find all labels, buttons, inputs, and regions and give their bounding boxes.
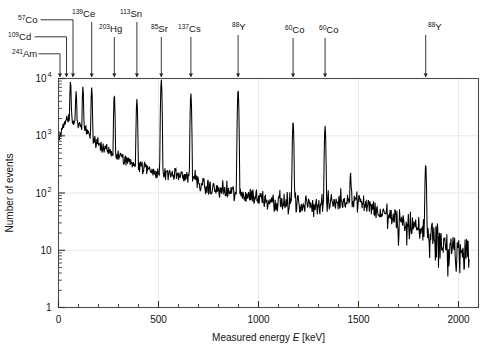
isotope-label: 109Cd [8,31,31,43]
isotope-symbol: Co [326,24,338,35]
isotope-annotation: 113Sn [120,8,142,78]
x-tick-label: 500 [150,314,167,325]
x-axis-label-unit: [keV] [299,332,325,343]
isotope-annotation: 60Co [319,24,339,78]
leader-arrowhead [424,73,428,77]
leader-arrowhead [323,73,327,77]
x-tick-label: 0 [56,314,62,325]
y-tick-label: 104 [35,70,51,84]
y-tick-label: 102 [35,185,51,199]
isotope-mass-number: 139 [72,8,83,15]
y-tick-mantissa: 10 [35,188,47,199]
isotope-label: 137Cs [178,23,201,35]
isotope-symbol: Co [292,24,304,35]
leader-arrowhead [112,73,116,77]
y-axis-label: Number of events [4,154,15,233]
spectrum-figure: 0500100015002000110102103104Measured ene… [0,0,493,347]
isotope-annotation: 85Sr [151,23,168,78]
leader-arrowhead [236,73,240,77]
isotope-annotation: 139Ce [72,8,95,78]
leader-arrowhead [189,73,193,77]
isotope-annotation: 137Cs [178,23,201,78]
leader-arrowhead [90,73,94,77]
isotope-symbol: Hg [110,23,122,34]
isotope-symbol: Cs [189,23,201,34]
isotope-annotation: 60Co [285,24,305,78]
leader-arrowhead [71,73,75,77]
isotope-symbol: Y [435,21,442,32]
isotope-label: 88Y [232,21,246,33]
isotope-label: 241Am [12,48,37,60]
isotope-label: 85Sr [151,23,168,35]
isotope-label: 139Ce [72,8,95,20]
leader-line [41,20,73,77]
leader-arrowhead [58,73,62,77]
isotope-label: 57Co [18,14,38,26]
isotope-mass-number: 113 [120,8,131,15]
y-tick-label: 1 [46,302,52,313]
x-tick-label: 1500 [347,314,370,325]
leader-arrowhead [64,73,68,77]
gridlines [59,79,479,308]
y-tick-label: 103 [35,127,51,141]
isotope-label: 60Co [319,24,339,36]
y-tick-exponent: 4 [48,70,52,79]
isotope-mass-number: 241 [12,48,23,55]
leader-arrowhead [159,73,163,77]
isotope-symbol: Am [23,48,37,59]
x-axis-label-text: Measured energy [212,332,293,343]
x-axis-label: Measured energy E [keV] [212,332,325,343]
isotope-symbol: Cd [19,31,31,42]
y-tick-label: 10 [40,245,52,256]
isotope-label: 60Co [285,24,305,36]
leader-arrowhead [135,73,139,77]
x-tick-label: 2000 [447,314,470,325]
y-tick-mantissa: 10 [35,73,47,84]
isotope-annotation: 88Y [424,21,443,78]
isotope-annotations: 241Am109Cd57Co139Ce203Hg113Sn85Sr137Cs88… [8,8,442,78]
isotope-mass-number: 109 [8,31,19,38]
spectrum-svg: 0500100015002000110102103104Measured ene… [0,0,493,347]
x-tick-label: 1000 [247,314,270,325]
y-tick-exponent: 2 [48,185,52,194]
y-tick-mantissa: 10 [35,130,47,141]
y-tick-labels: 110102103104 [35,70,52,313]
y-tick-exponent: 3 [48,127,52,136]
isotope-symbol: Ce [83,8,95,19]
isotope-symbol: Y [239,21,246,32]
isotope-symbol: Sr [158,23,168,34]
isotope-symbol: Sn [131,8,143,19]
spectrum-trace [59,80,469,277]
isotope-symbol: Co [25,14,37,25]
x-tick-labels: 0500100015002000 [56,314,470,325]
isotope-label: 203Hg [99,23,122,35]
isotope-mass-number: 137 [178,23,189,30]
isotope-label: 88Y [428,21,442,33]
isotope-annotation: 203Hg [99,23,122,78]
leader-arrowhead [291,73,295,77]
isotope-label: 113Sn [120,8,142,20]
svg-text:Measured energy E [keV]: Measured energy E [keV] [212,332,325,343]
isotope-annotation: 88Y [232,21,246,78]
isotope-mass-number: 203 [99,23,110,30]
